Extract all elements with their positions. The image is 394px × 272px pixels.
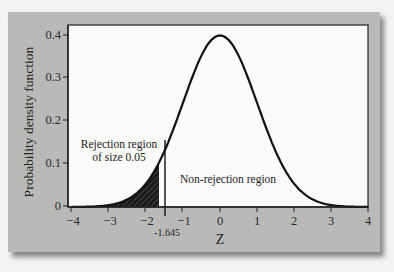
critical-value-label: -1.645: [154, 227, 180, 238]
x-ticks: [71, 207, 368, 212]
x-tick--1: −1: [177, 214, 190, 228]
rejection-region-label: Rejection region: [81, 138, 158, 151]
y-ticks: [63, 35, 68, 206]
chart-svg: 0 0.1 0.2 0.3 0.4 −4 −3 −2 −1 0 1 2 3 4 …: [0, 0, 394, 272]
x-tick-labels: −4 −3 −2 −1 0 1 2 3 4: [66, 214, 372, 228]
y-tick-0: 0: [55, 199, 61, 213]
x-tick-0: 0: [217, 214, 223, 228]
x-tick--4: −4: [66, 214, 80, 228]
x-axis-label: Z: [216, 232, 225, 247]
non-rejection-region-label: Non-rejection region: [180, 173, 276, 186]
x-tick--3: −3: [103, 214, 116, 228]
x-tick-3: 3: [328, 214, 334, 228]
rejection-size-label: of size 0.05: [92, 151, 146, 163]
x-tick-1: 1: [254, 214, 260, 228]
y-tick-0.1: 0.1: [45, 156, 61, 170]
y-axis-label: Probability density function: [21, 46, 36, 197]
y-tick-0.2: 0.2: [45, 113, 61, 127]
x-tick-4: 4: [365, 214, 372, 228]
y-tick-0.4: 0.4: [45, 28, 61, 42]
x-tick-2: 2: [291, 214, 297, 228]
x-tick--2: −2: [140, 214, 153, 228]
y-tick-0.3: 0.3: [45, 70, 61, 84]
y-tick-labels: 0 0.1 0.2 0.3 0.4: [45, 28, 61, 213]
